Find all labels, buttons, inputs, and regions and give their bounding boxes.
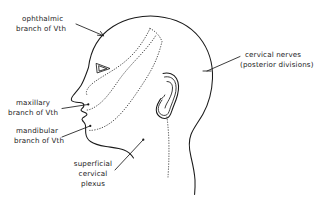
label-mandibular-line2: branch of Vth — [14, 136, 64, 145]
label-maxillary-line1: maxillary — [16, 98, 50, 107]
leader-dot-mandibular — [89, 125, 91, 127]
label-maxillary-line2: branch of Vth — [8, 108, 58, 117]
label-cervical-nerves-line2: (posterior divisions) — [240, 60, 314, 69]
label-mandibular-line1: mandibular — [16, 126, 58, 135]
label-scp-line1: superficial — [74, 159, 112, 168]
head-dermatome-diagram: ophthalmic branch of Vth maxillary branc… — [0, 0, 322, 197]
label-ophthalmic-branch: ophthalmic branch of Vth — [16, 14, 66, 33]
label-scp-line2: cervical — [79, 169, 108, 178]
label-mandibular-branch: mandibular branch of Vth — [14, 126, 64, 145]
label-ophthalmic-line1: ophthalmic — [22, 14, 63, 23]
leader-dot-maxillary — [87, 103, 89, 105]
leader-dot-superficial-cervical-plexus — [142, 139, 144, 141]
label-cervical-nerves-line1: cervical nerves — [245, 50, 301, 59]
label-ophthalmic-line2: branch of Vth — [16, 24, 66, 33]
label-scp-line3: plexus — [81, 179, 105, 188]
